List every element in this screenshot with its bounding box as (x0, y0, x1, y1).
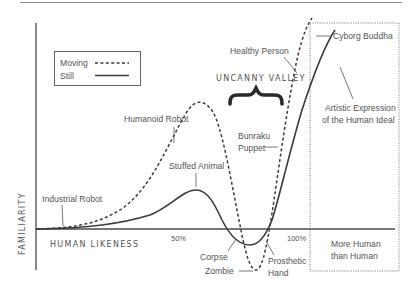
annotation-artistic-2: of the Human Ideal (322, 115, 395, 125)
tick-50: 50% (171, 234, 186, 243)
leader-artistic (340, 67, 353, 99)
annotation-corpse: Corpse (200, 252, 228, 262)
x-axis-label: HUMAN LIKENESS (50, 240, 139, 249)
annotation-cyborg-buddha: Cyborg Buddha (333, 31, 393, 41)
annotation-bunraku-2: Puppet (238, 143, 266, 153)
annotation-prosthetic-1: Prosthetic (268, 256, 307, 266)
leader-healthy-person (284, 57, 297, 73)
annotation-prosthetic-2: Hand (268, 268, 289, 278)
y-axis-label: FAMILIARITY (18, 192, 27, 255)
region-more-human-2: than Human (331, 251, 378, 261)
annotation-bunraku-1: Bunraku (238, 131, 270, 141)
legend: Moving Still (55, 52, 141, 86)
uncanny-valley-chart: Moving Still UNCANNY VALLEY HUMAN LIKENE… (0, 0, 417, 292)
uncanny-valley-brace (230, 88, 282, 104)
uncanny-valley-label: UNCANNY VALLEY (216, 74, 306, 83)
annotation-industrial-robot: Industrial Robot (42, 194, 103, 204)
annotation-stuffed-animal: Stuffed Animal (169, 161, 224, 171)
annotation-artistic-1: Artistic Expression (325, 103, 396, 113)
leader-corpse (228, 239, 236, 251)
annotation-healthy-person: Healthy Person (230, 46, 289, 56)
leader-industrial-robot (62, 205, 63, 226)
leader-prosthetic (266, 241, 274, 255)
annotation-humanoid-robot: Humanoid Robot (124, 114, 189, 124)
tick-100: 100% (287, 234, 307, 243)
annotation-zombie: Zombie (205, 266, 234, 276)
legend-moving-label: Moving (60, 58, 88, 68)
region-more-human-1: More Human (331, 239, 381, 249)
more-human-region (310, 23, 399, 271)
legend-still-label: Still (60, 71, 74, 81)
